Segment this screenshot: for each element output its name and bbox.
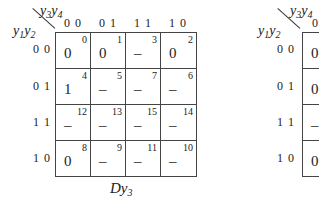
kmap-cell: 41	[56, 69, 91, 105]
kmap-cell: 3–	[126, 33, 161, 69]
kmap-cell: 6–	[161, 69, 196, 105]
kmap-cell: 00	[56, 33, 91, 69]
row-variables: y1y2	[258, 23, 280, 40]
kmap-cell: 20	[161, 33, 196, 69]
row-label: 0 0	[277, 42, 295, 57]
column-label: 0	[312, 16, 319, 31]
column-label: 0 0	[64, 16, 82, 31]
row-variables: y1y2	[13, 23, 35, 40]
kmap-cell: 10–	[161, 141, 196, 176]
column-label: 1 1	[134, 16, 152, 31]
kmap-cell: 14–	[161, 105, 196, 141]
column-variables: y3y4	[40, 3, 62, 20]
kmap-cell: 0	[303, 69, 319, 105]
row-label: 0 1	[33, 79, 51, 94]
kmap-grid: 00 10 3– 20 41 5– 7– 6– 12– 13– 15– 14– …	[55, 32, 197, 177]
row-label: 1 0	[33, 151, 51, 166]
kmap-cell: 0	[303, 141, 319, 176]
map-caption: Dy3	[110, 180, 133, 198]
row-label: 1 1	[277, 115, 295, 130]
column-label: 1 0	[169, 16, 187, 31]
kmap-cell: 5–	[91, 69, 126, 105]
kmap-cell: 10	[91, 33, 126, 69]
row-label: 1 0	[277, 151, 295, 166]
row-label: 0 0	[33, 42, 51, 57]
column-variables: y3y4	[290, 3, 312, 20]
kmap-cell: 12–	[56, 105, 91, 141]
kmap-cell: 13–	[91, 105, 126, 141]
kmap-cell: 0	[303, 33, 319, 69]
kmap-cell: 15–	[126, 105, 161, 141]
row-label: 0 1	[277, 79, 295, 94]
kmap-cell: 9–	[91, 141, 126, 176]
kmap-cell: –	[303, 105, 319, 141]
kmap-cell: 11–	[126, 141, 161, 176]
kmap-cell: 80	[56, 141, 91, 176]
row-label: 1 1	[33, 115, 51, 130]
column-label: 0 1	[99, 16, 117, 31]
kmap-grid: 0 0 – 0	[302, 32, 319, 177]
kmap-cell: 7–	[126, 69, 161, 105]
